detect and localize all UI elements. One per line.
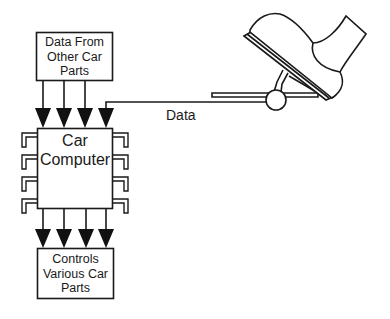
output-line-1: Controls	[37, 252, 114, 267]
input-line-2: Other Car	[36, 50, 113, 65]
computer-label: Car Computer	[37, 131, 113, 169]
diagram-canvas: Data From Other Car Parts Car Computer C…	[0, 0, 390, 319]
output-arrowheads	[35, 229, 114, 248]
input-line-3: Parts	[36, 64, 113, 79]
chip-pins-left	[22, 133, 37, 213]
output-line-2: Various Car	[37, 267, 114, 282]
output-box-label: Controls Various Car Parts	[37, 252, 114, 296]
data-signal-label: Data	[166, 107, 196, 123]
input-arrowheads	[35, 108, 114, 128]
input-box-label: Data From Other Car Parts	[36, 35, 113, 79]
computer-line-1: Car	[37, 131, 113, 150]
output-line-3: Parts	[37, 281, 114, 296]
computer-line-2: Computer	[37, 150, 113, 169]
chip-pins-right	[113, 133, 128, 213]
input-line-1: Data From	[36, 35, 113, 50]
